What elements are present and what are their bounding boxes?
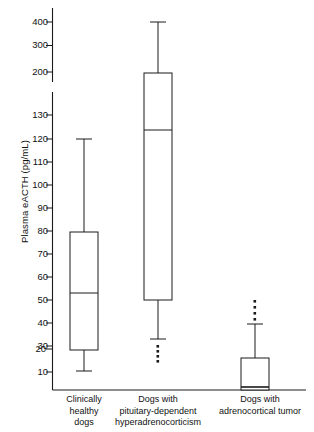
box-group-pdh xyxy=(144,22,172,339)
outlier-point xyxy=(157,360,160,363)
x-category-label-tumor: Dogs with adrenocortical tumor xyxy=(207,394,313,417)
outlier-point xyxy=(254,318,257,321)
boxplot-canvas xyxy=(0,0,314,432)
y-axis-ticks xyxy=(46,22,53,372)
cat-tumor-line2: adrenocortical tumor xyxy=(207,406,313,418)
outlier-point xyxy=(254,306,257,309)
outlier-point xyxy=(157,355,160,358)
outlier-point xyxy=(157,350,160,353)
cat-pdh-line1: Dogs with xyxy=(98,394,218,406)
boxplot-figure: Plasma eACTH (pg/mL) 400 300 200 130 120… xyxy=(0,0,314,432)
outlier-point xyxy=(254,312,257,315)
box-pdh xyxy=(144,73,172,300)
cat-tumor-line1: Dogs with xyxy=(207,394,313,406)
box-group-tumor xyxy=(241,324,269,390)
outlier-point xyxy=(254,300,257,303)
cat-pdh-line2: pituitary-dependent xyxy=(98,406,218,418)
box-group-healthy xyxy=(70,139,98,371)
x-category-label-pdh: Dogs with pituitary-dependent hyperadren… xyxy=(98,394,218,429)
box-healthy xyxy=(70,232,98,350)
cat-pdh-line3: hyperadrenocorticism xyxy=(98,417,218,429)
box-tumor xyxy=(241,358,269,390)
outliers-pdh xyxy=(157,345,160,363)
outliers-tumor xyxy=(254,300,257,321)
outlier-point xyxy=(157,345,160,348)
